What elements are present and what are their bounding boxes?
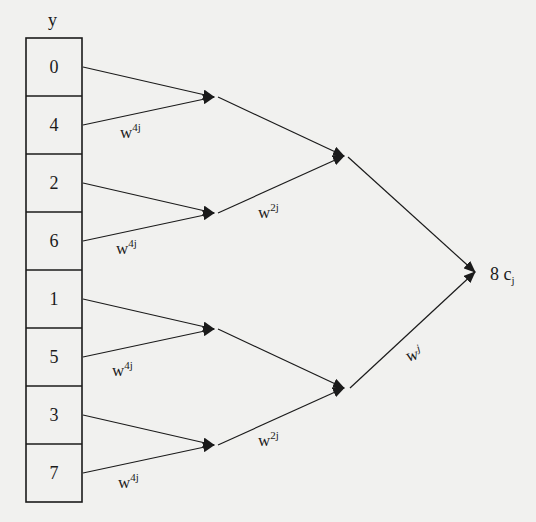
array-label: y — [48, 10, 57, 31]
cell-value: 7 — [26, 464, 82, 482]
cell-value: 5 — [26, 348, 82, 366]
cell-value: 1 — [26, 290, 82, 308]
cell-value: 3 — [26, 406, 82, 424]
weight-label: w4j — [116, 240, 137, 257]
fft-butterfly-diagram: y 0 4 2 6 1 5 3 7 w4j w4j w4j w4j w2j w2… — [0, 0, 536, 522]
edge-3-s1 — [83, 415, 214, 445]
weight-label: w4j — [120, 124, 141, 141]
output-label: 8 cj — [490, 265, 515, 283]
edge-top-s3 — [348, 157, 475, 272]
cell-value: 6 — [26, 232, 82, 250]
edge-7-s1 — [83, 445, 214, 473]
weight-label: w2j — [258, 204, 279, 221]
edge-1-s1 — [83, 299, 214, 329]
edge-5-s1 — [83, 329, 214, 357]
weight-label: w4j — [112, 362, 133, 379]
edge-a-s2 — [218, 97, 344, 156]
edge-4-s1 — [83, 97, 214, 125]
edge-c-s2 — [218, 329, 344, 388]
edge-d-s2 — [218, 388, 344, 445]
weight-label: w4j — [118, 474, 139, 491]
edge-bottom-s3 — [350, 272, 475, 388]
weight-label: w2j — [258, 432, 279, 449]
edge-6-s1 — [83, 213, 214, 241]
edge-2-s1 — [83, 183, 214, 213]
edge-b-s2 — [218, 156, 344, 213]
cell-value: 4 — [26, 116, 82, 134]
edge-0-s1 — [83, 67, 214, 97]
cell-value: 2 — [26, 174, 82, 192]
cell-value: 0 — [26, 58, 82, 76]
